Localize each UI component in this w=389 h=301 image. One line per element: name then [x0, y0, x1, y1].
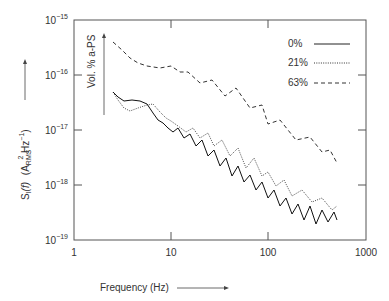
x-axis-label: Frequency (Hz)	[100, 282, 169, 293]
x-tick-label: 100	[260, 247, 277, 258]
svg-text:10−18: 10−18	[45, 178, 68, 191]
svg-text:SI(f) (ARMS2 Hz−1): SI(f) (ARMS2 Hz−1)	[17, 129, 32, 200]
series-21pct	[113, 92, 337, 210]
legend-label-21: 21%	[288, 57, 308, 68]
legend-label-63: 63%	[288, 77, 308, 88]
x-tick-label: 1000	[355, 247, 378, 258]
x-tick-label: 1	[71, 247, 77, 258]
annotation-arrow-icon	[102, 33, 106, 115]
legend-label-0: 0%	[288, 38, 303, 49]
legend: 0% 21% 63%	[288, 38, 350, 88]
y-tick-labels: 10−15 10−16 10−17 10−18 10−19	[45, 13, 68, 246]
plot-frame	[74, 20, 366, 240]
series-0pct	[113, 92, 337, 224]
x-axis-arrow-icon	[177, 286, 229, 290]
x-ticks	[171, 20, 268, 240]
x-tick-label: 10	[165, 247, 177, 258]
chart: 1 10 100 1000 10−15 10−16 10−17 10−18 10…	[0, 0, 389, 301]
svg-text:10−16: 10−16	[45, 68, 68, 81]
y-axis-arrow-icon	[23, 59, 27, 100]
y-ticks	[74, 75, 366, 185]
svg-text:10−15: 10−15	[45, 13, 68, 26]
y-axis-label: SI(f) (ARMS2 Hz−1)	[17, 129, 32, 200]
annotation-label: Vol. % a-PS	[86, 34, 97, 88]
svg-text:10−17: 10−17	[45, 123, 68, 136]
svg-text:10−19: 10−19	[45, 233, 68, 246]
